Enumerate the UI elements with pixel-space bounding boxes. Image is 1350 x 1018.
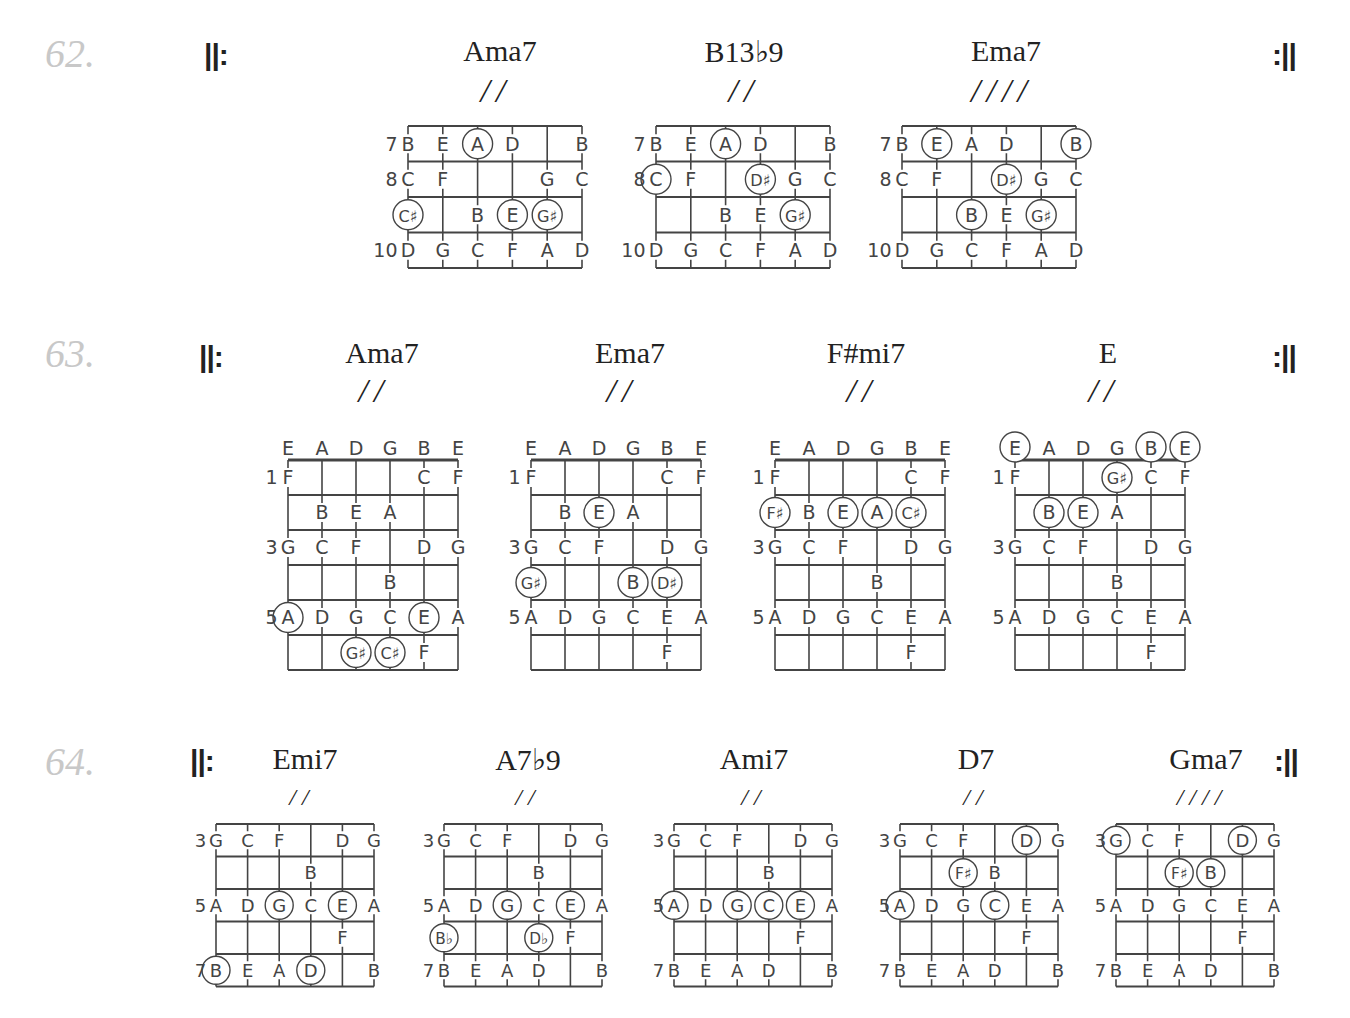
note-label: C (1144, 466, 1157, 488)
note-label: D (753, 133, 768, 155)
chord-name: F#mi7 (827, 336, 905, 370)
note-label: C (471, 239, 484, 261)
note-label: F (940, 466, 951, 488)
note-label: G♯ (346, 644, 366, 663)
note-label: E (1000, 204, 1012, 226)
note-label: B (870, 571, 883, 593)
note-label: A (1111, 501, 1124, 523)
note-label: F (755, 239, 766, 261)
fret-number: 1 (265, 466, 277, 488)
fretboard-grid (531, 460, 701, 670)
note-label: B (1110, 571, 1123, 593)
note-label: B (823, 133, 836, 155)
note-label: B (989, 862, 1001, 883)
note-label: B (802, 501, 815, 523)
fret-number: 7 (423, 960, 434, 981)
note-label: B (1069, 133, 1082, 155)
note-label: F (795, 927, 805, 948)
note-label: D (793, 830, 807, 851)
open-string-label: G (626, 437, 641, 459)
note-label: A (894, 895, 907, 916)
note-label: D (335, 830, 349, 851)
note-label: F (565, 927, 575, 948)
note-label: F (419, 641, 430, 663)
note-label: D♯ (750, 171, 770, 190)
note-label: A (541, 239, 554, 261)
note-label: F (507, 239, 518, 261)
repeat-start-sign: ||: (204, 38, 228, 72)
note-label: G (667, 830, 681, 851)
repeat-end-sign: :|| (1274, 744, 1298, 778)
note-label: C (802, 536, 815, 558)
rhythm-slashes: // (963, 784, 988, 811)
chord-name: Ama7 (463, 34, 536, 68)
rhythm-slashes: // (481, 72, 512, 110)
open-string-label: E (282, 437, 294, 459)
note-label: F (437, 168, 448, 190)
rhythm-slashes: // (607, 372, 638, 410)
note-label: B (965, 204, 978, 226)
open-string-label: B (1144, 437, 1157, 459)
rhythm-slashes: //// (971, 72, 1033, 110)
note-label: E (350, 501, 362, 523)
fret-number: 3 (265, 536, 277, 558)
note-label: F (1021, 927, 1031, 948)
note-label: F (770, 466, 781, 488)
note-label: G (1008, 536, 1023, 558)
note-label: A (368, 895, 381, 916)
note-label: A (282, 606, 295, 628)
note-label: G (451, 536, 466, 558)
fret-number: 3 (423, 830, 434, 851)
note-label: E (931, 133, 943, 155)
note-label: G (694, 536, 709, 558)
note-label: B (763, 862, 775, 883)
note-label: B (533, 862, 545, 883)
note-label: E (1142, 960, 1153, 981)
note-label: C (699, 830, 712, 851)
note-label: C (1141, 830, 1154, 851)
note-label: F (453, 466, 464, 488)
note-label: F (283, 466, 294, 488)
repeat-start-sign: ||: (199, 340, 223, 374)
exercise-number: 62. (45, 30, 95, 77)
note-label: C (870, 606, 883, 628)
note-label: E (470, 960, 481, 981)
note-label: D (988, 960, 1002, 981)
note-label: E (795, 895, 806, 916)
fret-number: 7 (879, 133, 891, 155)
note-label: D (649, 239, 664, 261)
note-label: C (823, 168, 836, 190)
note-label: G (437, 830, 451, 851)
note-label: F (1174, 830, 1184, 851)
fret-number: 3 (1095, 830, 1106, 851)
note-label: G (956, 895, 970, 916)
note-label: B (368, 960, 380, 981)
note-label: D♭ (529, 930, 548, 948)
note-label: G (825, 830, 839, 851)
fretboard-diagram: EADGBEFCF1BEAGCFDG3G♯BD♯ADGCEA5F (483, 428, 723, 688)
note-label: D (563, 830, 577, 851)
fret-number: 1 (992, 466, 1004, 488)
fret-number: 3 (992, 536, 1004, 558)
note-label: F (351, 536, 362, 558)
note-label: D (505, 133, 520, 155)
open-string-label: B (417, 437, 430, 459)
note-label: G (500, 895, 514, 916)
note-label: A (826, 895, 839, 916)
note-label: F (337, 927, 347, 948)
fret-number: 7 (653, 960, 664, 981)
rhythm-slashes: // (359, 372, 390, 410)
note-label: D (802, 606, 817, 628)
note-label: F (732, 830, 742, 851)
note-label: G (524, 536, 539, 558)
note-label: E (242, 960, 253, 981)
fretboard-grid (408, 126, 582, 268)
note-label: A (384, 501, 397, 523)
note-label: D (1204, 960, 1218, 981)
fretboard-diagram: GCFDG3BADGCEA5B♭D♭FBEADB7 (408, 812, 628, 1002)
note-label: G (929, 239, 944, 261)
note-label: F (274, 830, 284, 851)
note-label: A (668, 895, 681, 916)
note-label: G (1034, 168, 1049, 190)
repeat-start-sign: ||: (190, 744, 214, 778)
